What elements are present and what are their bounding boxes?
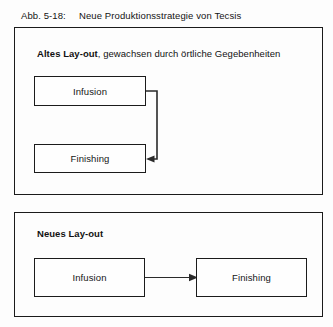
- figure-caption-number: Abb. 5-18:: [21, 10, 79, 21]
- process-box-new-infusion[interactable]: Infusion: [34, 258, 145, 297]
- panel-new-layout-title-bold: Neues Lay-out: [37, 228, 103, 239]
- process-box-old-infusion-label: Infusion: [73, 86, 107, 97]
- panel-new-layout-title: Neues Lay-out: [37, 228, 103, 239]
- figure-caption-text: Neue Produktionsstrategie von Tecsis: [79, 10, 241, 21]
- panel-old-layout-title-bold: Altes Lay-out: [37, 48, 98, 59]
- process-box-new-finishing-label: Finishing: [232, 272, 271, 283]
- figure-root: Abb. 5-18:Neue Produktionsstrategie von …: [0, 0, 333, 327]
- panel-new-layout: Neues Lay-out Infusion Finishing: [14, 212, 323, 317]
- process-box-old-finishing-label: Finishing: [71, 153, 110, 164]
- figure-caption: Abb. 5-18:Neue Produktionsstrategie von …: [21, 10, 241, 21]
- process-box-new-infusion-label: Infusion: [72, 272, 106, 283]
- panel-old-layout: Altes Lay-out, gewachsen durch örtliche …: [14, 27, 323, 195]
- panel-old-layout-title-rest: , gewachsen durch örtliche Gegebenheiten: [98, 48, 281, 59]
- panel-old-layout-title: Altes Lay-out, gewachsen durch örtliche …: [37, 48, 280, 59]
- process-box-new-finishing[interactable]: Finishing: [196, 258, 307, 297]
- process-box-old-finishing[interactable]: Finishing: [34, 144, 146, 173]
- process-box-old-infusion[interactable]: Infusion: [34, 76, 146, 106]
